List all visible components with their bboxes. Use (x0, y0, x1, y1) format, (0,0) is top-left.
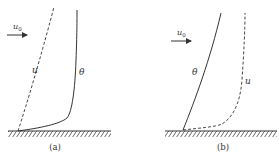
u-curve-label: u (245, 76, 251, 86)
caption-b: (b) (217, 142, 229, 152)
temperature-profile-theta (183, 13, 221, 130)
wall-hatching (8, 131, 111, 137)
u-curve-label: u (32, 65, 38, 75)
theta-curve-label: θ (79, 67, 85, 77)
temperature-profile-theta (18, 10, 77, 131)
theta-curve-label: θ (192, 67, 198, 77)
panel-a: u0 u θ (a) (7, 7, 111, 152)
wall-hatching (165, 131, 277, 137)
caption-a: (a) (49, 142, 61, 152)
flow-label: u0 (13, 22, 22, 32)
panel-b: u0 θ u (b) (165, 13, 277, 152)
boundary-layer-diagram: u0 u θ (a) u0 θ u (b) (0, 0, 279, 158)
flow-label: u0 (177, 28, 186, 38)
